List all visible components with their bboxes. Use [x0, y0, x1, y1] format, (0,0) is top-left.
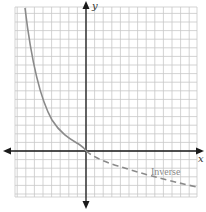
x-axis-label: x [198, 153, 204, 164]
inverse-label: Inverse [151, 166, 181, 177]
graph: y x Inverse [0, 0, 206, 212]
y-axis-label: y [91, 0, 98, 11]
x-axis-left-arrow-icon [3, 148, 11, 155]
y-axis-up-arrow-icon [83, 1, 90, 9]
y-axis-down-arrow-icon [83, 201, 90, 209]
